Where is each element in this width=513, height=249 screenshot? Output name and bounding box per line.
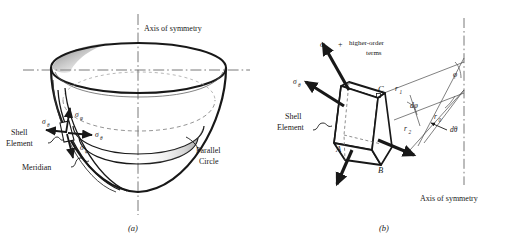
sigma-theta-top-symbol-b: σ θ xyxy=(293,77,301,88)
svg-text:θ: θ xyxy=(298,82,301,88)
svg-text:2: 2 xyxy=(409,129,412,135)
sigma-theta-left-symbol-a: σ θ xyxy=(42,117,50,128)
radius-r1-symbol: r 1 xyxy=(395,84,403,95)
svg-text:0: 0 xyxy=(439,117,442,123)
plus-sign-b: + xyxy=(338,40,343,49)
shell-element-leader-a xyxy=(48,137,63,143)
rim-ellipse xyxy=(51,43,226,93)
angle-dphi-symbol: dφ xyxy=(410,101,418,110)
parallel-circle-label-a-line1: Parallel xyxy=(196,146,221,155)
axis-of-symmetry-label-b: Axis of symmetry xyxy=(420,194,478,203)
shell-element-label-b-line1: Shell xyxy=(285,112,302,121)
panel-b: σ φ + higher-order terms σ θ Shell Eleme… xyxy=(277,18,478,233)
stress-arrow-sigma-phi-top-b xyxy=(323,44,349,90)
svg-text:θ: θ xyxy=(47,122,50,128)
caption-a: (a) xyxy=(128,223,138,233)
svg-text:σ: σ xyxy=(80,143,84,152)
construction-line-r0 xyxy=(424,90,464,143)
angle-dtheta-symbol: dθ xyxy=(450,125,458,134)
radius-r0-symbol: r 0 xyxy=(434,112,442,123)
caption-b: (b) xyxy=(379,223,389,233)
axis-of-symmetry-label-a: Axis of symmetry xyxy=(144,24,202,33)
panel-a: Axis of symmetry Shell Element Meridian … xyxy=(6,14,250,233)
svg-text:σ: σ xyxy=(75,110,79,119)
shell-element-label-b-line2: Element xyxy=(277,123,304,132)
shell-element-label-a-line2: Element xyxy=(6,139,33,148)
construction-line-r1-lower xyxy=(394,93,464,120)
angle-phi-symbol: φ xyxy=(453,70,457,79)
shell-element-label-a-line1: Shell xyxy=(11,128,28,137)
shell-element-leader-b xyxy=(313,123,332,130)
shell-stress-figure: Axis of symmetry Shell Element Meridian … xyxy=(0,0,513,249)
rim-shading xyxy=(52,43,110,73)
dtheta-pointer-arrow xyxy=(431,123,447,130)
sigma-theta-right-symbol-a: σ θ xyxy=(95,130,103,141)
svg-text:r: r xyxy=(434,112,437,121)
svg-text:r: r xyxy=(395,84,398,93)
svg-text:φ: φ xyxy=(325,45,328,51)
vertex-label-a: A xyxy=(335,144,342,154)
radius-r2-symbol: r 2 xyxy=(404,124,412,135)
svg-text:1: 1 xyxy=(400,89,403,95)
parallel-circle-hidden-back xyxy=(63,72,215,100)
stress-arrow-sigma-theta-top-b xyxy=(306,82,344,106)
svg-text:σ: σ xyxy=(95,130,99,139)
parallel-circle-hidden xyxy=(63,100,215,131)
vertex-label-b: B xyxy=(378,165,383,175)
svg-text:σ: σ xyxy=(320,40,324,49)
svg-text:θ: θ xyxy=(100,135,103,141)
meridian-label-a: Meridian xyxy=(22,163,51,172)
vertex-label-c: C xyxy=(378,84,384,94)
higher-order-label-line1: higher-order xyxy=(349,39,385,47)
higher-order-label-line2: terms xyxy=(366,49,382,57)
svg-text:σ: σ xyxy=(293,77,297,86)
sigma-phi-upper-symbol-a: σ φ xyxy=(75,110,83,121)
svg-text:φ: φ xyxy=(85,148,88,154)
parallel-circle-label-a-line2: Circle xyxy=(199,157,219,166)
svg-text:r: r xyxy=(404,124,407,133)
svg-text:φ: φ xyxy=(80,115,83,121)
svg-text:σ: σ xyxy=(42,117,46,126)
